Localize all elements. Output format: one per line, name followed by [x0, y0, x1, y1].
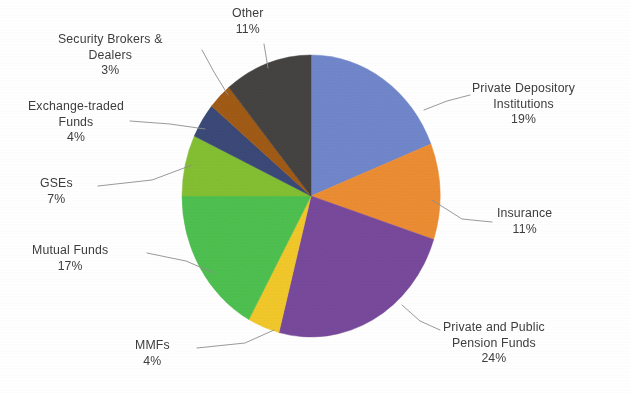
leader-line-etf [130, 121, 205, 129]
leader-line-gses [98, 165, 192, 186]
slice-label-mutual-funds: Mutual Funds 17% [32, 243, 108, 274]
slice-label-line1: Exchange-traded [28, 99, 124, 115]
slice-label-security-brokers-and-dealers: Security Brokers & Dealers 3% [58, 32, 163, 79]
slice-label-percent: 4% [135, 354, 170, 370]
slice-label-private-and-public-pension-funds: Private and Public Pension Funds 24% [443, 320, 545, 367]
slice-label-line1: Mutual Funds [32, 243, 108, 259]
slice-label-percent: 17% [32, 259, 108, 275]
slice-label-percent: 4% [28, 130, 124, 146]
slice-label-percent: 19% [472, 112, 575, 128]
slice-label-line1: Other [232, 6, 264, 22]
leader-line-private-depository [424, 95, 470, 110]
slice-label-line2: Pension Funds [443, 336, 545, 352]
slice-label-percent: 11% [232, 22, 264, 38]
slice-label-mmfs: MMFs 4% [135, 338, 170, 369]
slice-label-line1: GSEs [40, 176, 73, 192]
slice-label-percent: 3% [58, 63, 163, 79]
slice-label-percent: 24% [443, 351, 545, 367]
leader-line-security-brokers [202, 50, 228, 95]
pie-slices-group [182, 55, 440, 337]
slice-label-exchange-traded-funds: Exchange-traded Funds 4% [28, 99, 124, 146]
slice-label-private-depository-institutions: Private Depository Institutions 19% [472, 81, 575, 128]
slice-label-line1: Private Depository [472, 81, 575, 97]
slice-label-line2: Funds [28, 115, 124, 131]
slice-label-line1: Security Brokers & [58, 32, 163, 48]
slice-label-percent: 7% [40, 192, 73, 208]
slice-label-line2: Institutions [472, 97, 575, 113]
slice-label-percent: 11% [497, 222, 552, 238]
leader-line-mmfs [197, 330, 274, 348]
leader-line-insurance [432, 200, 492, 222]
slice-label-other: Other 11% [232, 6, 264, 37]
slice-label-insurance: Insurance 11% [497, 206, 552, 237]
slice-label-line2: Dealers [58, 48, 163, 64]
leader-line-pension [402, 305, 440, 330]
slice-label-line1: MMFs [135, 338, 170, 354]
slice-label-gses: GSEs 7% [40, 176, 73, 207]
slice-label-line1: Private and Public [443, 320, 545, 336]
pie-chart: Private Depository Institutions 19% Insu… [0, 0, 630, 393]
slice-label-line1: Insurance [497, 206, 552, 222]
